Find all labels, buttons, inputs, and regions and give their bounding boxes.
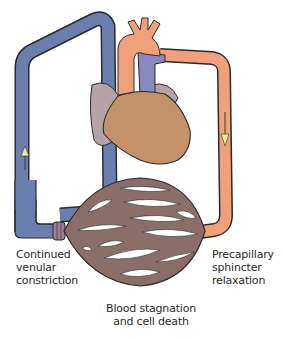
label-precapillary-relaxation: Precapillary sphincter relaxation	[212, 248, 274, 287]
label-line: sphincter	[212, 261, 274, 274]
label-blood-stagnation: Blood stagnation and cell death	[96, 302, 206, 328]
label-line: Continued	[16, 248, 78, 261]
venular-constriction	[53, 222, 65, 240]
circulation-diagram	[0, 0, 283, 341]
label-line: relaxation	[212, 274, 274, 287]
capillary-bed	[64, 178, 205, 286]
label-line: Blood stagnation	[96, 302, 206, 315]
label-line: constriction	[16, 274, 78, 287]
label-line: venular	[16, 261, 78, 274]
label-line: Precapillary	[212, 248, 274, 261]
label-line: and cell death	[96, 315, 206, 328]
label-venular-constriction: Continued venular constriction	[16, 248, 78, 287]
